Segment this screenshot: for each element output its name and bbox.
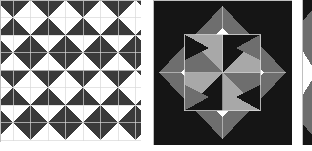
- pinwheel-quadrant-bottom-left: [185, 73, 223, 111]
- pinwheel-quadrant-top-left: [185, 35, 223, 73]
- cropped-sliver-svg: [300, 0, 312, 145]
- pinwheel-quadrant-top-right: [223, 35, 261, 73]
- pinwheel-quadrant-bottom-right: [223, 73, 261, 111]
- center-pinwheel-block: [185, 35, 261, 111]
- pinwheel-quilt-svg: [153, 0, 292, 145]
- checkerboard-diamond-svg: [0, 0, 141, 142]
- panel-pinwheel-diamond-quilt-block: [153, 0, 292, 145]
- quilt-panels-stage: [0, 0, 312, 151]
- checkerboard-cell-group: [0, 0, 141, 140]
- panel-checkerboard-diamond-quilt: [0, 0, 141, 142]
- panel-cropped-quilt-block-sliver: [300, 0, 312, 145]
